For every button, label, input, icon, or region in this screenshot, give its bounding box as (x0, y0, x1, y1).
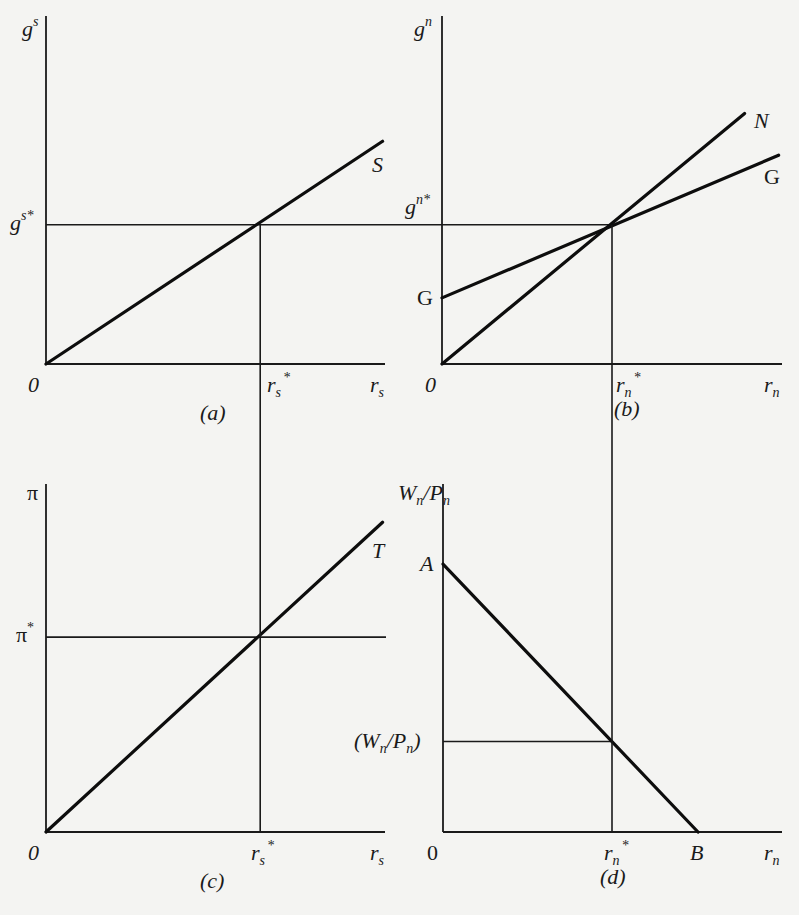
panel-b-equilibrium-y-label: gn* (405, 192, 430, 219)
panel-b-curve-G-label: G (764, 164, 780, 189)
panel-d: Wn/Pn A (Wn/Pn) 0 rn* B rn (d) (354, 480, 782, 889)
panel-a-origin-label: 0 (28, 372, 39, 397)
panel-a-y-axis-label: gs (22, 14, 39, 41)
panel-c-x-axis-label: rs (370, 840, 385, 868)
panel-a-curve-S-label: S (372, 152, 383, 177)
panel-b-y-axis-label: gn (414, 14, 432, 41)
panel-d-curve-AB (443, 564, 698, 832)
panel-b: gn gn* N G G 0 rn* rn (b) (400, 14, 782, 421)
panel-c-curve-T-label: T (372, 538, 386, 563)
panel-d-origin-label: 0 (427, 840, 438, 865)
four-panel-diagram: gs gs* S 0 rs* rs (a) gn gn* N G G 0 rn*… (0, 0, 799, 915)
panel-a-x-axis-label: rs (370, 372, 385, 400)
panel-c-equilibrium-y-label: π* (16, 620, 34, 647)
panel-d-y-axis-label: Wn/Pn (398, 480, 450, 508)
panel-a-equilibrium-x-label: rs* (267, 370, 290, 400)
panel-d-caption: (d) (600, 864, 626, 889)
panel-d-point-B-label: B (690, 840, 703, 865)
panel-c-curve-T (46, 522, 383, 832)
panel-d-point-A-label: A (418, 551, 434, 576)
panel-c: π π* T 0 rs* rs (c) (16, 480, 386, 893)
panel-c-origin-label: 0 (28, 840, 39, 865)
panel-c-y-axis-label: π (27, 480, 38, 505)
panel-c-caption: (c) (200, 868, 224, 893)
panel-a: gs gs* S 0 rs* rs (a) (10, 14, 400, 425)
panel-d-x-axis-label: rn (764, 840, 780, 868)
panel-a-curve-S (46, 141, 383, 364)
panel-b-curve-N (442, 113, 745, 364)
panel-b-caption: (b) (614, 396, 640, 421)
panel-d-equilibrium-y-label: (Wn/Pn) (354, 728, 421, 756)
panel-b-curve-G (442, 155, 779, 298)
panel-b-origin-label: 0 (425, 372, 436, 397)
panel-a-caption: (a) (200, 400, 226, 425)
panel-a-equilibrium-y-label: gs* (10, 208, 33, 235)
panel-b-x-axis-label: rn (764, 372, 780, 400)
panel-c-equilibrium-x-label: rs* (251, 838, 274, 868)
panel-b-curve-G-intercept-label: G (417, 285, 433, 310)
panel-b-curve-N-label: N (753, 108, 770, 133)
